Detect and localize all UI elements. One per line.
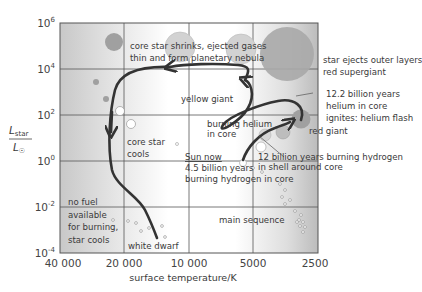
no-fuel-label-3: for burning, <box>68 222 118 232</box>
planetary-nebula-label-1: core star shrinks, ejected gases <box>130 41 267 51</box>
post-agb-star <box>116 107 125 116</box>
helium-flash-label-2: helium in core <box>326 101 387 111</box>
y-axis-ticks: 106 104 102 100 10-2 10-4 <box>35 16 56 259</box>
helium-flash-label-3: ignites: helium flash <box>326 113 413 123</box>
shell-burning-label-1: 12 billion years burning hydrogen <box>258 152 403 162</box>
y-axis-label: Lstar L☉ <box>9 124 32 155</box>
hr-diagram-svg: 106 104 102 100 10-2 10-4 Lstar L☉ 40 00… <box>0 0 422 292</box>
small-star <box>176 143 179 146</box>
svg-text:100: 100 <box>37 154 55 167</box>
no-fuel-label-2: available <box>68 210 107 220</box>
track-downward-arrow <box>111 112 112 132</box>
red-supergiant-star <box>260 27 314 81</box>
white-dwarf-label: white dwarf <box>128 241 180 251</box>
sun-now-label-1: Sun now <box>185 152 222 162</box>
core-cools-label-2: cools <box>127 149 150 159</box>
blue-giant-star-2 <box>103 96 109 102</box>
sun-now-label-2: 4.5 billion years <box>185 163 254 173</box>
yellow-giant-label: yellow giant <box>181 94 234 104</box>
x-axis-label: surface temperature/K <box>129 272 237 283</box>
shell-burning-label-2: in shell around core <box>258 162 343 172</box>
svg-text:5000: 5000 <box>240 257 267 269</box>
svg-text:Lstar: Lstar <box>9 124 29 138</box>
svg-text:40 000: 40 000 <box>45 257 82 269</box>
core-star <box>127 120 136 129</box>
svg-text:10-2: 10-2 <box>35 200 55 213</box>
supergiant-label-2: red supergiant <box>323 67 386 77</box>
massive-star <box>105 33 123 51</box>
subgiant-star <box>256 142 266 152</box>
planetary-nebula-label-2: thin and form planetary nebula <box>130 53 264 63</box>
burning-helium-label-1: burning helium <box>207 119 272 129</box>
supergiant-label-1: star ejects outer layers <box>323 55 422 65</box>
svg-text:104: 104 <box>37 62 55 75</box>
sun-now-label-3: burning hydrogen in core <box>185 174 293 184</box>
svg-text:20 000: 20 000 <box>106 257 143 269</box>
helium-flash-label-1: 12.2 billion years <box>326 89 400 99</box>
x-axis-ticks: 40 000 20 000 10 000 5000 2500 <box>45 257 329 269</box>
svg-text:L☉: L☉ <box>13 141 25 155</box>
svg-text:10 000: 10 000 <box>171 257 208 269</box>
core-cools-label-1: core star <box>127 137 165 147</box>
blue-giant-star-1 <box>93 79 99 85</box>
burning-helium-label-2: in core <box>207 129 236 139</box>
svg-text:106: 106 <box>37 16 55 29</box>
main-sequence-label: main sequence <box>219 215 285 225</box>
no-fuel-label-4: star cools <box>68 235 110 245</box>
svg-text:2500: 2500 <box>302 257 329 269</box>
hr-diagram: 106 104 102 100 10-2 10-4 Lstar L☉ 40 00… <box>0 0 422 292</box>
svg-text:102: 102 <box>37 108 55 121</box>
no-fuel-label-1: no fuel <box>68 197 98 207</box>
red-giant-label: red giant <box>309 126 348 136</box>
